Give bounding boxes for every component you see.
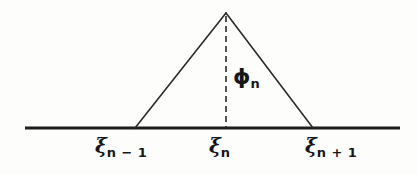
phi-subscript: n — [251, 76, 260, 91]
hat-left-edge — [135, 13, 226, 128]
xi-subscript: n + 1 — [317, 145, 357, 160]
xi-symbol: ξ — [95, 134, 107, 158]
basis-function-label-phi-n: ϕn — [233, 66, 260, 90]
node-label-xi-n-plus-1: ξn + 1 — [305, 136, 357, 159]
xi-subscript: n − 1 — [107, 145, 147, 160]
phi-symbol: ϕ — [233, 64, 251, 89]
xi-symbol: ξ — [209, 134, 221, 158]
xi-symbol: ξ — [305, 134, 317, 158]
node-label-xi-n-minus-1: ξn − 1 — [95, 136, 147, 159]
xi-subscript: n — [221, 145, 231, 160]
node-label-xi-n: ξn — [209, 136, 231, 159]
figure-container: ξn − 1 ξn ξn + 1 ϕn — [0, 0, 418, 174]
